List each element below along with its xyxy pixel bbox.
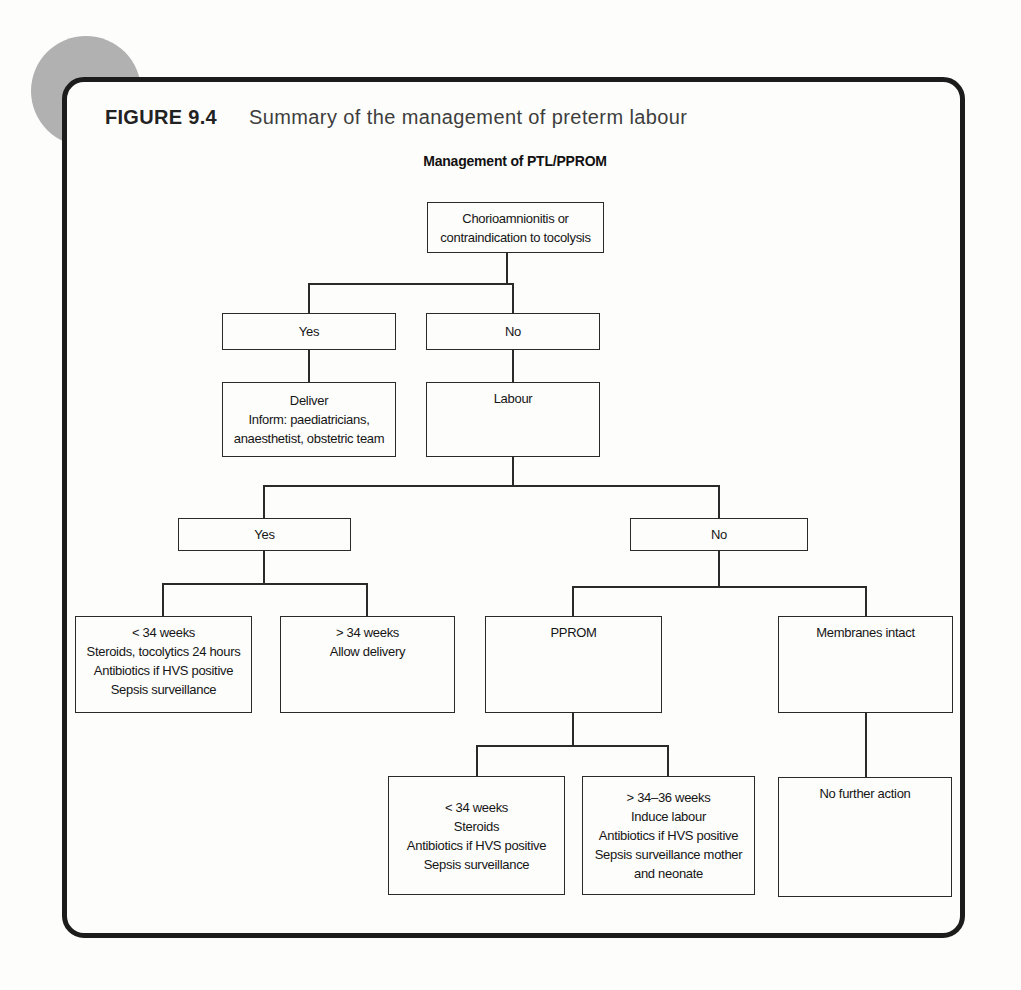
node-deliver: Deliver Inform: paediatricians, anaesthe… bbox=[222, 382, 396, 457]
node-pprom: PPROM bbox=[485, 616, 662, 713]
connector bbox=[512, 350, 514, 382]
node-no-2: No bbox=[630, 518, 808, 551]
connector bbox=[718, 551, 720, 588]
node-labour: Labour bbox=[426, 382, 600, 457]
connector bbox=[308, 350, 310, 382]
connector bbox=[572, 713, 574, 747]
node-membranes-intact: Membranes intact bbox=[778, 616, 953, 713]
node-over-34-36-weeks-induce: > 34–36 weeks Induce labour Antibiotics … bbox=[582, 776, 755, 895]
node-chorioamnionitis: Chorioamnionitis or contraindication to … bbox=[427, 202, 604, 253]
connector bbox=[572, 586, 574, 616]
connector bbox=[162, 583, 368, 585]
node-yes-2: Yes bbox=[178, 518, 351, 551]
figure-caption: FIGURE 9.4 Summary of the management of … bbox=[105, 106, 687, 129]
connector bbox=[263, 485, 265, 518]
node-over-34-weeks-allow-delivery: > 34 weeks Allow delivery bbox=[280, 616, 455, 713]
connector bbox=[865, 586, 867, 616]
connector bbox=[512, 457, 514, 487]
connector bbox=[308, 283, 514, 285]
book-page: FIGURE 9.4 Summary of the management of … bbox=[0, 0, 1021, 990]
figure-title: Summary of the management of preterm lab… bbox=[249, 106, 688, 129]
flowchart-title: Management of PTL/PPROM bbox=[355, 153, 675, 169]
connector bbox=[263, 485, 720, 487]
node-no-1: No bbox=[426, 313, 600, 350]
connector bbox=[308, 283, 310, 313]
connector bbox=[572, 586, 867, 588]
node-no-further-action: No further action bbox=[778, 777, 952, 897]
connector bbox=[667, 745, 669, 776]
connector bbox=[162, 583, 164, 616]
connector bbox=[512, 283, 514, 313]
connector bbox=[865, 713, 867, 777]
connector bbox=[506, 253, 508, 285]
figure-number: FIGURE 9.4 bbox=[105, 106, 217, 129]
connector bbox=[263, 551, 265, 585]
node-under-34-weeks-tocolytics: < 34 weeks Steroids, tocolytics 24 hours… bbox=[75, 616, 252, 713]
connector bbox=[366, 583, 368, 616]
node-under-34-weeks-steroids: < 34 weeks Steroids Antibiotics if HVS p… bbox=[388, 776, 565, 895]
node-yes-1: Yes bbox=[222, 313, 396, 350]
connector bbox=[476, 745, 669, 747]
connector bbox=[476, 745, 478, 776]
connector bbox=[718, 485, 720, 518]
